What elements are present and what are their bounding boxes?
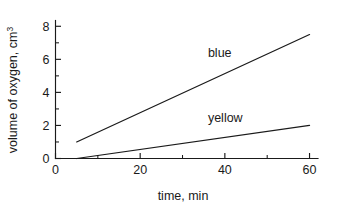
x-tick-label-60: 60 <box>303 163 317 177</box>
series-line-blue <box>77 35 310 142</box>
y-tick-label-2: 2 <box>43 119 50 133</box>
x-tick-label-20: 20 <box>133 163 147 177</box>
y-axis-title-superscript: 3 <box>5 27 15 32</box>
x-tick-label-40: 40 <box>218 163 232 177</box>
y-axis-title: volume of oxygen, cm3 <box>5 27 20 154</box>
series-annotation-labels: blueyellow <box>208 46 244 125</box>
y-axis-title-text: volume of oxygen, cm <box>6 32 20 154</box>
y-axis-major-ticks <box>56 26 62 158</box>
line-chart: 0204060 02468 blueyellow time, min volum… <box>0 0 350 205</box>
y-tick-label-0: 0 <box>43 152 50 166</box>
x-axis-title: time, min <box>158 189 209 203</box>
y-axis-tick-labels: 02468 <box>43 20 50 166</box>
chart-figure: 0204060 02468 blueyellow time, min volum… <box>0 0 350 205</box>
x-tick-label-0: 0 <box>52 163 59 177</box>
series-label-blue: blue <box>208 46 232 60</box>
y-tick-label-4: 4 <box>43 86 50 100</box>
series-line-yellow <box>77 125 310 158</box>
y-tick-label-8: 8 <box>43 20 50 34</box>
data-series-group <box>77 35 310 159</box>
x-axis-tick-labels: 0204060 <box>52 163 317 177</box>
series-label-yellow: yellow <box>208 111 244 125</box>
y-tick-label-6: 6 <box>43 53 50 67</box>
